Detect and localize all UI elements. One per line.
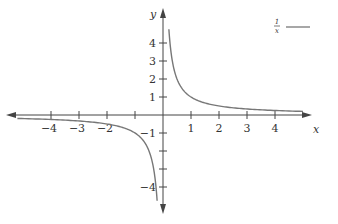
y-tick-label: 1 xyxy=(149,91,156,104)
y-tick-label: 4 xyxy=(149,37,156,50)
legend: 1 x xyxy=(274,18,310,35)
y-tick-label: 2 xyxy=(149,73,156,86)
x-tick-label: −3 xyxy=(69,122,85,135)
x-axis-right-arrow-icon xyxy=(302,112,312,118)
x-tick-label: 4 xyxy=(272,122,279,135)
x-tick-label: 3 xyxy=(244,122,251,135)
y-tick-label: −4 xyxy=(140,181,156,194)
chart-canvas: −4−3−21234−4−11234xy 1 x xyxy=(0,0,338,224)
y-axis-down-arrow-icon xyxy=(160,204,166,214)
y-tick-label: 3 xyxy=(149,55,156,68)
legend-denominator: x xyxy=(275,27,279,35)
legend-numerator: 1 xyxy=(275,18,279,26)
x-tick-label: 2 xyxy=(216,122,223,135)
y-tick-label: −1 xyxy=(140,127,156,140)
curve-branch xyxy=(169,29,303,111)
x-tick-label: 1 xyxy=(188,122,195,135)
x-tick-label: −4 xyxy=(41,122,57,135)
curve-branch xyxy=(17,118,157,200)
x-axis-label: x xyxy=(313,123,320,136)
y-axis-up-arrow-icon xyxy=(160,8,166,18)
y-axis-label: y xyxy=(149,8,157,21)
x-axis-left-arrow-icon xyxy=(6,112,16,118)
